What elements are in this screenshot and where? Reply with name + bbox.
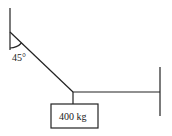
mass-label: 400 kg — [59, 111, 87, 122]
tension-diagram: 45° 400 kg — [0, 0, 172, 136]
angle-label: 45° — [12, 52, 26, 63]
angle-arc — [10, 43, 22, 48]
